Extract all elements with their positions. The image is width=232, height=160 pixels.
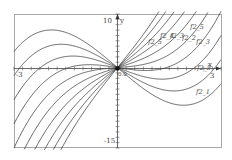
y-min-label: -15 xyxy=(104,137,115,145)
curve-label: f2_3 xyxy=(195,38,210,46)
origin-point xyxy=(115,66,119,70)
y-axis-name: y xyxy=(119,17,124,25)
curve-f2_10 xyxy=(61,12,159,150)
curve-labels: f2_5f2_5f2_4f2_3f2_2f2_3f2_5f2_1 xyxy=(147,23,211,96)
curve-f2_8 xyxy=(44,12,174,150)
function-plot: 10 y -15 -3 3 x 0.0 f2_5f2_5f2_4f2_3f2_2… xyxy=(0,0,232,160)
curve-label: f2_1 xyxy=(195,88,210,96)
x-min-label: -3 xyxy=(16,71,23,79)
x-max-label: 3 xyxy=(210,72,214,80)
curve-label: f2_5 xyxy=(189,23,204,31)
x-axis-arrow-icon xyxy=(216,67,221,71)
origin-label: 0.0 xyxy=(118,71,127,77)
curve-label: f2_5 xyxy=(196,64,211,72)
curve-f2_9 xyxy=(53,11,165,149)
curve-label: f2_2 xyxy=(181,34,196,42)
y-max-label: 10 xyxy=(103,17,112,25)
